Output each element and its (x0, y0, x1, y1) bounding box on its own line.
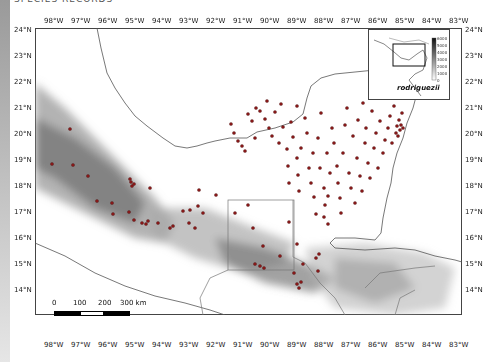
scale-segment-white (80, 311, 104, 316)
x-tick: 93°W (179, 341, 198, 349)
x-tick: 96°W (98, 341, 117, 349)
legend-tick: 6000 (437, 36, 447, 41)
y-tick: 23°N (14, 52, 32, 60)
x-tick: 90°W (260, 341, 279, 349)
x-tick: 83°W (449, 341, 468, 349)
legend-tick: 1000 (437, 71, 447, 76)
x-tick: 94°W (152, 17, 171, 25)
x-tick: 88°W (314, 17, 333, 25)
x-tick: 93°W (179, 17, 198, 25)
y-tick: 18°N (465, 182, 483, 190)
y-tick: 24°N (465, 26, 483, 34)
y-tick: 20°N (465, 130, 483, 138)
x-tick: 92°W (206, 341, 225, 349)
legend-tick: 3000 (437, 57, 447, 62)
x-tick: 89°W (287, 17, 306, 25)
elevation-colorbar (432, 38, 436, 80)
y-tick: 17°N (14, 208, 32, 216)
x-tick: 98°W (44, 17, 63, 25)
x-tick: 86°W (368, 341, 387, 349)
y-tick: 19°N (14, 156, 32, 164)
x-tick: 84°W (422, 17, 441, 25)
x-tick: 95°W (125, 341, 144, 349)
scale-segment-black (104, 311, 130, 316)
x-tick: 88°W (314, 341, 333, 349)
x-tick: 87°W (341, 341, 360, 349)
figure-caption: SPECIES RECORDS (14, 0, 113, 4)
x-tick: 94°W (152, 341, 171, 349)
x-tick: 97°W (71, 17, 90, 25)
scale-label: 100 (73, 299, 86, 307)
y-tick: 18°N (14, 182, 32, 190)
x-tick: 87°W (341, 17, 360, 25)
y-tick: 21°N (465, 104, 483, 112)
y-tick: 14°N (14, 286, 32, 294)
legend-tick: 4000 (437, 50, 447, 55)
y-tick: 17°N (465, 208, 483, 216)
y-tick: 19°N (465, 156, 483, 164)
y-tick: 23°N (465, 52, 483, 60)
y-tick: 20°N (14, 130, 32, 138)
legend-tick: 2000 (437, 64, 447, 69)
x-tick: 86°W (368, 17, 387, 25)
page-edge-shadow (0, 0, 10, 362)
x-tick: 91°W (233, 341, 252, 349)
x-tick: 97°W (71, 341, 90, 349)
y-tick: 21°N (14, 104, 32, 112)
y-tick: 15°N (465, 260, 483, 268)
elevation-shading (35, 83, 455, 315)
legend-tick: 5000 (437, 43, 447, 48)
legend-tick: 0 (437, 78, 440, 83)
x-tick: 98°W (44, 341, 63, 349)
x-tick: 85°W (395, 17, 414, 25)
y-tick: 16°N (465, 234, 483, 242)
y-tick: 22°N (465, 78, 483, 86)
scale-label: 0 (52, 299, 56, 307)
x-tick: 95°W (125, 17, 144, 25)
x-tick: 85°W (395, 341, 414, 349)
x-tick: 91°W (233, 17, 252, 25)
x-tick: 84°W (422, 341, 441, 349)
y-tick: 22°N (14, 78, 32, 86)
x-tick: 89°W (287, 341, 306, 349)
species-label: rodriguezii (397, 84, 440, 92)
scale-label: 300 km (120, 299, 146, 307)
scale-segment-black (54, 311, 80, 316)
y-tick: 15°N (14, 260, 32, 268)
x-tick: 90°W (260, 17, 279, 25)
y-tick: 16°N (14, 234, 32, 242)
scale-label: 200 (98, 299, 111, 307)
y-tick: 14°N (465, 286, 483, 294)
x-tick: 83°W (449, 17, 468, 25)
x-tick: 92°W (206, 17, 225, 25)
x-tick: 96°W (98, 17, 117, 25)
y-tick: 24°N (14, 26, 32, 34)
